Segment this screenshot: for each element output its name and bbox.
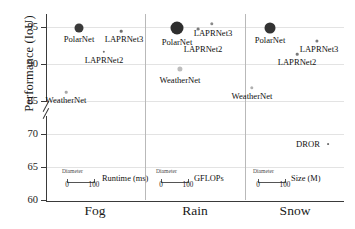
y-tick-label-85: 85	[14, 95, 38, 106]
legend-min-snow: 0	[256, 181, 260, 189]
legend-min-rain: 0	[159, 181, 163, 189]
gridline-65	[47, 167, 344, 168]
legend-unit-snow: Size (M)	[291, 174, 321, 183]
point-label-snow-dror: DROR	[296, 139, 320, 149]
y-tick-70	[41, 134, 46, 135]
scatter-chart: Performance (IoU) 95 90 85 70 65 60 Pola…	[0, 0, 355, 229]
legend-max-rain: 100	[183, 181, 194, 189]
point-label-fog-laprnet2: LAPRNet2	[85, 55, 124, 65]
legend-title-rain: Diameter	[156, 168, 177, 174]
x-category-snow: Snow	[280, 203, 311, 219]
point-fog-polarnet	[75, 24, 84, 33]
point-rain-laprnet2	[197, 28, 200, 31]
point-label-fog-laprnet3: LAPRNet3	[105, 34, 144, 44]
x-category-rain: Rain	[182, 203, 208, 219]
x-category-fog: Fog	[84, 203, 105, 219]
y-tick-95	[41, 27, 46, 28]
y-tick-90	[41, 64, 46, 65]
y-axis-line-lower	[46, 116, 47, 201]
point-snow-laprnet2	[296, 53, 299, 56]
point-snow-laprnet3	[315, 39, 318, 42]
point-label-fog-weathernet: WeatherNet	[46, 95, 87, 105]
y-tick-label-70: 70	[14, 128, 38, 139]
point-label-rain-weathernet: WeatherNet	[160, 75, 201, 85]
point-label-fog-polarnet: PolarNet	[64, 34, 95, 44]
point-rain-laprnet3	[210, 22, 213, 25]
y-tick-label-60: 60	[14, 194, 38, 205]
point-label-rain-laprnet3: LAPRNet3	[194, 28, 233, 38]
point-fog-laprnet2	[103, 51, 105, 53]
y-tick-65	[41, 167, 46, 168]
y-tick-60	[41, 200, 46, 201]
legend-title-fog: Diameter	[62, 168, 83, 174]
point-label-snow-weathernet: WeatherNet	[232, 91, 273, 101]
gridline-85	[47, 101, 344, 102]
y-axis-line-upper	[46, 14, 47, 102]
point-snow-dror	[327, 143, 329, 145]
point-fog-weathernet	[65, 91, 68, 94]
legend-max-fog: 100	[89, 181, 100, 189]
point-snow-weathernet	[250, 86, 253, 89]
point-rain-weathernet	[177, 66, 182, 71]
legend-unit-rain: GFLOPs	[194, 174, 224, 183]
point-label-snow-polarnet: PolarNet	[255, 35, 286, 45]
x-axis-line	[46, 201, 344, 202]
gridline-70	[47, 134, 344, 135]
panel-separator-fog-rain	[145, 14, 146, 200]
point-rain-polarnet	[171, 22, 184, 35]
y-tick-label-90: 90	[14, 58, 38, 69]
point-fog-laprnet3	[120, 30, 123, 33]
point-label-snow-laprnet2: LAPRNet2	[278, 57, 317, 67]
point-label-rain-laprnet2: LAPRNet2	[184, 44, 223, 54]
y-tick-label-95: 95	[14, 21, 38, 32]
y-tick-label-65: 65	[14, 161, 38, 172]
legend-min-fog: 0	[65, 181, 69, 189]
point-label-snow-laprnet3: LAPRNet3	[300, 44, 339, 54]
point-snow-polarnet	[265, 23, 276, 34]
legend-unit-fog: Runtime (ms)	[102, 174, 148, 183]
panel-separator-rain-snow	[245, 14, 246, 200]
legend-title-snow: Diameter	[253, 168, 274, 174]
legend-max-snow: 100	[280, 181, 291, 189]
